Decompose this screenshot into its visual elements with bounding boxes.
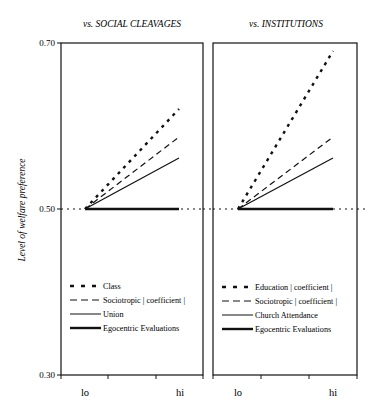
right-panel: lo hi Education | coefficient | Sociotro…: [213, 43, 365, 398]
left-series-sociotropic: [85, 137, 179, 209]
right-legend-church-attendance: Church Attendance: [255, 311, 318, 320]
right-series-sociotropic: [238, 137, 333, 209]
left-series-union: [85, 158, 179, 209]
left-x-hi: hi: [176, 387, 184, 398]
right-legend-education: Education | coefficient |: [255, 283, 333, 292]
left-legend-egocentric: Egocentric Evaluations: [103, 324, 179, 333]
right-series-church-attendance: [238, 158, 333, 209]
right-x-lo: lo: [234, 387, 242, 398]
y-axis-label: Level of welfare preference: [17, 158, 27, 262]
left-legend: Class Sociotropic | coefficient | Union …: [70, 282, 185, 333]
right-legend-egocentric: Egocentric Evaluations: [255, 325, 331, 334]
ytick-050: 0.50: [39, 204, 55, 214]
right-series-education: [238, 51, 333, 209]
right-legend: Education | coefficient | Sociotropic | …: [222, 283, 337, 334]
left-panel-title: vs. SOCIAL CLEAVAGES: [83, 19, 181, 29]
right-x-hi: hi: [329, 387, 337, 398]
left-legend-sociotropic: Sociotropic | coefficient |: [103, 296, 185, 305]
right-legend-sociotropic: Sociotropic | coefficient |: [255, 297, 337, 306]
left-x-lo: lo: [81, 387, 89, 398]
ytick-070: 0.70: [39, 38, 55, 48]
ytick-030: 0.30: [39, 370, 55, 380]
left-legend-class: Class: [103, 282, 121, 291]
left-panel: lo hi Class Sociotropic | coefficient | …: [61, 43, 203, 398]
right-panel-title: vs. INSTITUTIONS: [249, 19, 323, 29]
left-legend-union: Union: [103, 310, 123, 319]
chart-figure: vs. SOCIAL CLEAVAGES vs. INSTITUTIONS Le…: [0, 0, 376, 412]
left-series-class: [85, 109, 179, 209]
